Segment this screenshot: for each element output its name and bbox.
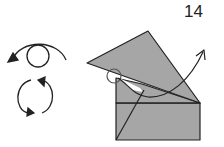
diagram-figure bbox=[0, 0, 224, 147]
rotate-icon bbox=[18, 77, 53, 116]
paper-model bbox=[87, 31, 205, 140]
turn-over-icon bbox=[8, 44, 66, 67]
origami-diagram: 14 bbox=[0, 0, 224, 147]
